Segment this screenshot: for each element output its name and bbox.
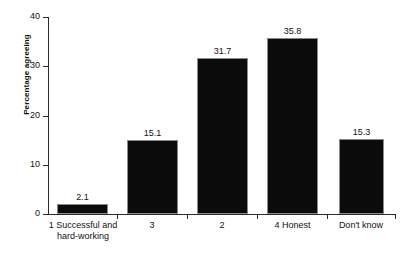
x-axis-tick [117, 214, 118, 219]
x-axis-line [48, 214, 396, 215]
bar-value-label: 15.1 [144, 128, 162, 138]
bar-value-label: 15.3 [353, 127, 371, 137]
y-axis-tick-label: 30 [30, 60, 40, 71]
bar: 2.1 [57, 204, 108, 214]
y-axis-tick: 0 [43, 214, 48, 215]
x-axis-category-label: 1 Successful and hard-working [29, 220, 137, 242]
y-axis-tick-label: 20 [30, 110, 40, 121]
y-axis-tick: 10 [43, 165, 48, 166]
y-axis-tick: 30 [43, 66, 48, 67]
y-axis-tick: 40 [43, 17, 48, 18]
x-axis-tick [395, 214, 396, 219]
bar: 31.7 [197, 58, 248, 214]
bar-value-label: 2.1 [76, 192, 89, 202]
x-axis-category-label: 4 Honest [257, 220, 328, 231]
x-axis-category-label: Don't know [327, 220, 395, 231]
x-axis-category-label-line: 3 [122, 220, 182, 231]
x-axis-tick [327, 214, 328, 219]
y-axis-tick: 20 [43, 116, 48, 117]
x-axis-category-label: 2 [192, 220, 252, 231]
x-axis-tick [187, 214, 188, 219]
y-axis-title: Percentage agreeing [22, 5, 31, 145]
y-axis-tick-label: 10 [30, 159, 40, 170]
plot-area: 0 10 20 30 40 2.1 15.1 31.7 35.8 [48, 17, 396, 214]
y-axis-tick-label: 40 [30, 11, 40, 22]
x-axis-tick [257, 214, 258, 219]
y-axis-tick-label: 0 [35, 208, 40, 219]
bar-value-label: 31.7 [214, 46, 232, 56]
x-axis-category-label-line: Don't know [327, 220, 395, 231]
bar: 15.3 [339, 139, 384, 214]
x-axis-category-label-line: 4 Honest [257, 220, 328, 231]
x-axis-category-label: 3 [122, 220, 182, 231]
x-axis-category-label-line: 2 [192, 220, 252, 231]
bar: 35.8 [267, 38, 318, 214]
y-axis-line [48, 17, 49, 214]
bar: 15.1 [127, 140, 178, 214]
bar-chart-figure: Percentage agreeing 0 10 20 30 40 2.1 [0, 0, 413, 256]
x-axis-category-label-line: 1 Successful and [29, 220, 137, 231]
x-axis-category-label-line: hard-working [29, 231, 137, 242]
bar-value-label: 35.8 [284, 26, 302, 36]
